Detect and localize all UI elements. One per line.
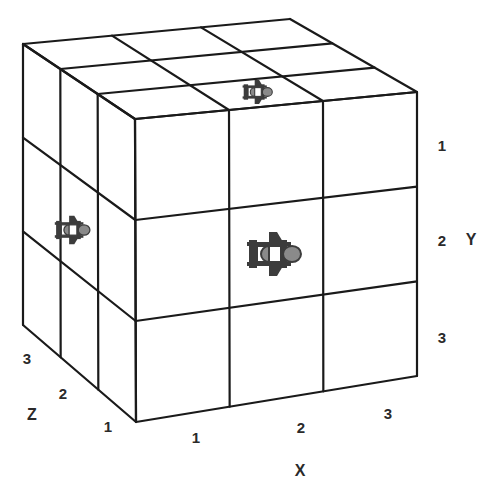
y-tick-2: 2	[438, 233, 446, 248]
z-tick-3: 3	[23, 351, 31, 366]
top-x-line	[135, 92, 417, 119]
z-tick-1: 1	[104, 419, 112, 434]
x-tick-1: 1	[192, 430, 200, 445]
front-hline	[136, 376, 417, 422]
top-depth-line	[290, 19, 417, 92]
marker-front-ship-icon	[247, 232, 301, 276]
front-hline	[135, 187, 417, 220]
z-axis-label: Z	[27, 407, 37, 423]
grid-lines	[23, 19, 417, 422]
left-vline	[135, 119, 136, 422]
top-depth-line	[112, 36, 229, 110]
left-hline	[23, 138, 135, 220]
left-hline	[23, 231, 136, 321]
y-tick-3: 3	[438, 330, 446, 345]
marker-top-ship-icon	[243, 80, 273, 104]
x-axis-label: X	[295, 463, 306, 479]
y-tick-1: 1	[438, 138, 446, 153]
left-hline	[23, 325, 136, 422]
front-vline	[229, 110, 230, 407]
front-hline	[136, 281, 417, 321]
left-vline	[98, 94, 99, 390]
top-x-line	[60, 43, 332, 69]
x-tick-2: 2	[297, 420, 305, 435]
y-axis-label: Y	[466, 232, 477, 248]
top-x-line	[98, 68, 375, 94]
cube-diagram: 1 2 3 X 1 2 3 Y 1 2 3 Z	[0, 0, 489, 494]
x-tick-3: 3	[384, 406, 392, 421]
markers	[55, 80, 301, 276]
z-tick-2: 2	[59, 386, 67, 401]
left-hline	[23, 44, 135, 119]
cube-grid	[0, 0, 489, 494]
top-x-line	[23, 19, 290, 44]
